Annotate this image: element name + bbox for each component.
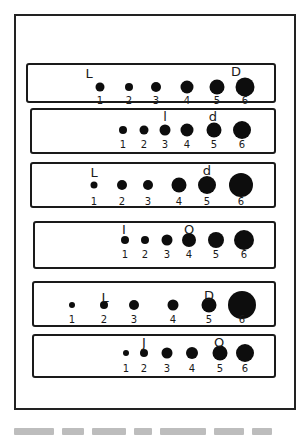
- dot-number-label: 6: [238, 197, 244, 207]
- dot-number-label: 5: [214, 96, 220, 106]
- dot-number-label: 1: [97, 96, 103, 106]
- marker-label: d: [203, 164, 211, 177]
- dot-1: [123, 350, 129, 356]
- dot-4: [186, 347, 198, 359]
- marker-label: L: [101, 291, 108, 304]
- dot-6: [229, 173, 253, 197]
- caption-word-illegible: [160, 428, 206, 435]
- dot-number-label: 6: [239, 315, 245, 325]
- marker-label: l: [163, 110, 167, 123]
- dot-5: [198, 176, 216, 194]
- dot-4: [168, 300, 179, 311]
- dot-number-label: 1: [123, 364, 129, 374]
- marker-label: O: [214, 336, 224, 349]
- dot-number-label: 4: [176, 197, 182, 207]
- dot-number-label: 4: [184, 140, 190, 150]
- dot-1: [121, 236, 129, 244]
- dot-number-label: 3: [164, 250, 170, 260]
- dot-1: [69, 302, 75, 308]
- dot-1: [96, 83, 105, 92]
- dot-3: [143, 180, 153, 190]
- caption-word-illegible: [92, 428, 126, 435]
- dot-2: [125, 83, 133, 91]
- dot-number-label: 5: [204, 197, 210, 207]
- caption-word-illegible: [252, 428, 272, 435]
- dot-number-label: 2: [141, 364, 147, 374]
- marker-label: D: [204, 289, 214, 302]
- figure-caption: [14, 428, 296, 440]
- dot-strip-5: 123456LD: [32, 281, 276, 327]
- dot-4: [181, 124, 194, 137]
- dot-number-label: 4: [189, 364, 195, 374]
- dot-1: [91, 182, 98, 189]
- marker-label: L: [90, 166, 97, 179]
- dot-2: [140, 126, 149, 135]
- marker-label: I: [122, 223, 126, 236]
- dot-number-label: 1: [120, 140, 126, 150]
- dot-6: [236, 344, 254, 362]
- caption-word-illegible: [214, 428, 244, 435]
- dot-5: [208, 232, 224, 248]
- dot-number-label: 2: [119, 197, 125, 207]
- dot-6: [233, 121, 251, 139]
- marker-label: J: [142, 336, 146, 349]
- dot-strip-4: 123456IO: [33, 221, 276, 269]
- dot-2: [141, 236, 149, 244]
- caption-word-illegible: [134, 428, 152, 435]
- dot-number-label: 2: [141, 140, 147, 150]
- dot-1: [119, 126, 127, 134]
- dot-number-label: 6: [242, 96, 248, 106]
- dot-number-label: 3: [153, 96, 159, 106]
- dot-6: [236, 78, 255, 97]
- dot-number-label: 5: [211, 140, 217, 150]
- dot-number-label: 5: [217, 364, 223, 374]
- dot-strip-2: 123456ld: [30, 108, 276, 154]
- dot-number-label: 4: [184, 96, 190, 106]
- dot-6: [234, 230, 254, 250]
- dot-3: [162, 348, 173, 359]
- dot-strip-3: 123456Ld: [30, 162, 276, 208]
- dot-number-label: 3: [162, 140, 168, 150]
- dot-2: [140, 349, 148, 357]
- dot-number-label: 6: [241, 250, 247, 260]
- dot-number-label: 3: [131, 315, 137, 325]
- dot-3: [151, 82, 161, 92]
- dot-number-label: 6: [239, 140, 245, 150]
- dot-number-label: 1: [91, 197, 97, 207]
- marker-label: O: [184, 223, 194, 236]
- dot-number-label: 1: [122, 250, 128, 260]
- dot-number-label: 3: [164, 364, 170, 374]
- dot-3: [129, 300, 139, 310]
- marker-label: L: [85, 67, 92, 80]
- caption-word-illegible: [14, 428, 54, 435]
- dot-number-label: 2: [126, 96, 132, 106]
- marker-label: d: [209, 110, 217, 123]
- dot-number-label: 6: [242, 364, 248, 374]
- dot-strip-6: 123456JO: [32, 334, 276, 378]
- dot-number-label: 2: [142, 250, 148, 260]
- dot-4: [181, 81, 194, 94]
- caption-word-illegible: [62, 428, 84, 435]
- marker-label: D: [231, 65, 241, 78]
- dot-2: [117, 180, 127, 190]
- dot-number-label: 5: [206, 315, 212, 325]
- dot-5: [210, 80, 225, 95]
- dot-5: [207, 123, 222, 138]
- dot-3: [162, 235, 173, 246]
- dot-number-label: 3: [145, 197, 151, 207]
- dot-4: [172, 178, 187, 193]
- dot-strip-1: 123456LD: [26, 63, 276, 103]
- dot-number-label: 2: [101, 315, 107, 325]
- dot-number-label: 4: [186, 250, 192, 260]
- dot-number-label: 1: [69, 315, 75, 325]
- dot-number-label: 4: [170, 315, 176, 325]
- dot-3: [160, 125, 171, 136]
- dot-number-label: 5: [213, 250, 219, 260]
